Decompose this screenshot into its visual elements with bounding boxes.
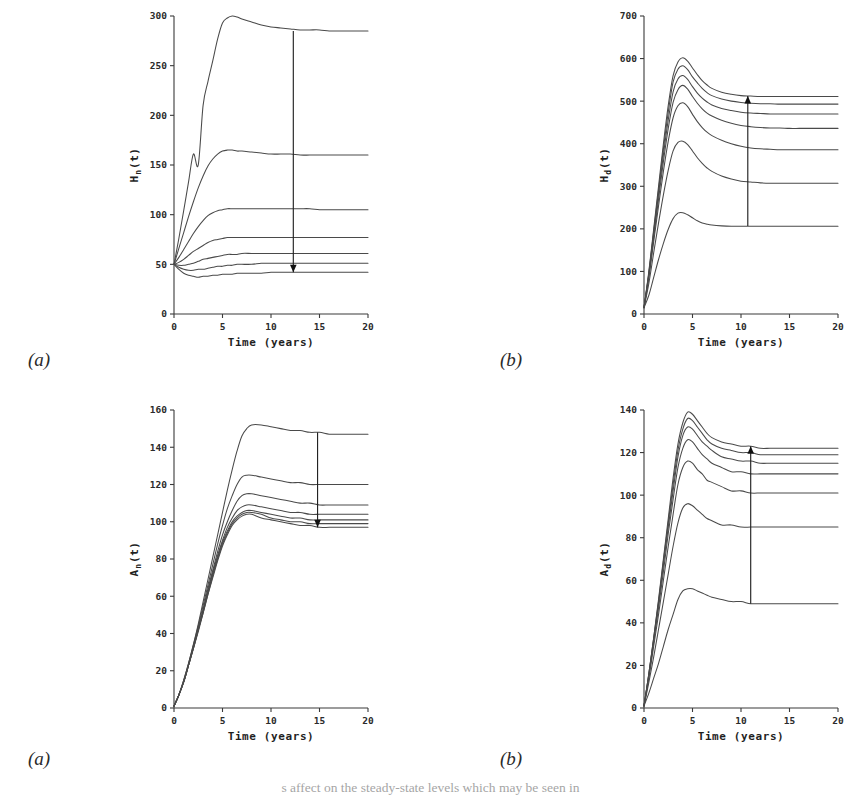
axes — [644, 16, 838, 314]
x-tick-label: 20 — [362, 321, 374, 332]
y-tick-label: 0 — [161, 308, 167, 319]
curve-line — [174, 475, 368, 706]
y-tick-label: 80 — [626, 532, 638, 543]
curve-group — [644, 58, 838, 308]
y-tick-label: 200 — [620, 223, 637, 234]
y-tick-label: 80 — [156, 553, 168, 564]
x-tick-label: 20 — [832, 715, 844, 726]
curve-line — [174, 264, 368, 277]
plot-panel-bottom-right: 02040608010012014005101520Time (years)Ad… — [596, 396, 848, 754]
x-axis-ticks: 05101520 — [641, 314, 844, 332]
svg-text:Hn(t): Hn(t) — [128, 148, 143, 183]
y-axis-title: Ad(t) — [598, 542, 613, 577]
curve-group — [174, 16, 368, 277]
y-axis-ticks: 050100150200250300 — [150, 10, 174, 319]
svg-text:An(t): An(t) — [128, 542, 143, 577]
y-tick-label: 100 — [150, 209, 167, 220]
y-tick-label: 300 — [150, 10, 167, 21]
x-tick-label: 5 — [690, 321, 696, 332]
curve-line — [174, 263, 368, 270]
y-tick-label: 20 — [626, 660, 638, 671]
chart-panel-h-n: 05010015020025030005101520Time (years)Hn… — [126, 2, 378, 360]
plot-panel-top-left: 05010015020025030005101520Time (years)Hn… — [126, 2, 378, 360]
y-tick-label: 60 — [626, 575, 638, 586]
x-tick-label: 10 — [265, 715, 277, 726]
x-tick-label: 0 — [641, 715, 647, 726]
y-tick-label: 100 — [620, 266, 637, 277]
y-axis-title: Hn(t) — [128, 148, 143, 183]
axes — [174, 410, 368, 708]
curve-line — [644, 103, 838, 308]
x-axis-title: Time (years) — [228, 336, 315, 349]
y-tick-label: 120 — [620, 447, 637, 458]
x-tick-label: 15 — [314, 321, 326, 332]
curve-line — [174, 16, 368, 264]
x-axis-title: Time (years) — [228, 730, 315, 743]
curve-line — [644, 141, 838, 308]
chart-panel-a-d: 02040608010012014005101520Time (years)Ad… — [596, 396, 848, 754]
direction-arrow — [290, 31, 297, 272]
x-tick-label: 20 — [832, 321, 844, 332]
y-tick-label: 140 — [620, 404, 637, 415]
x-tick-label: 5 — [690, 715, 696, 726]
x-axis-title: Time (years) — [698, 730, 785, 743]
y-axis-ticks: 020406080100120140 — [620, 404, 644, 713]
panel-tag-bottom-left: (a) — [28, 748, 50, 770]
curve-line — [644, 504, 838, 706]
panel-tag-bottom-right: (b) — [500, 748, 522, 770]
x-tick-label: 5 — [220, 715, 226, 726]
x-axis-ticks: 05101520 — [171, 708, 374, 726]
curve-line — [174, 209, 368, 265]
y-tick-label: 300 — [620, 181, 637, 192]
y-tick-label: 140 — [150, 442, 167, 453]
x-axis-ticks: 05101520 — [171, 314, 374, 332]
y-tick-label: 250 — [150, 60, 167, 71]
x-tick-label: 10 — [735, 715, 747, 726]
y-tick-label: 160 — [150, 404, 167, 415]
curve-line — [644, 76, 838, 308]
direction-arrow — [744, 96, 751, 226]
y-tick-label: 700 — [620, 10, 637, 21]
direction-arrow — [747, 446, 754, 604]
x-tick-label: 15 — [314, 715, 326, 726]
plot-panel-top-right: 010020030040050060070005101520Time (year… — [596, 2, 848, 360]
x-tick-label: 0 — [171, 715, 177, 726]
curve-line — [174, 150, 368, 264]
y-axis-ticks: 0100200300400500600700 — [620, 10, 644, 319]
panel-tag-top-right: (b) — [500, 349, 522, 371]
y-axis-title: Hd(t) — [598, 148, 613, 183]
y-tick-label: 150 — [150, 159, 167, 170]
y-tick-label: 400 — [620, 138, 637, 149]
y-tick-label: 100 — [150, 516, 167, 527]
y-tick-label: 100 — [620, 490, 637, 501]
curve-line — [644, 427, 838, 706]
y-tick-label: 600 — [620, 53, 637, 64]
svg-text:Ad(t): Ad(t) — [598, 542, 613, 577]
svg-text:Hd(t): Hd(t) — [598, 148, 613, 183]
curve-line — [644, 412, 838, 706]
y-tick-label: 0 — [161, 702, 167, 713]
curve-line — [174, 425, 368, 707]
curve-group — [644, 412, 838, 706]
y-axis-title: An(t) — [128, 542, 143, 577]
y-tick-label: 20 — [156, 665, 168, 676]
x-tick-label: 10 — [735, 321, 747, 332]
y-tick-label: 200 — [150, 110, 167, 121]
x-axis-ticks: 05101520 — [641, 708, 844, 726]
chart-panel-h-d: 010020030040050060070005101520Time (year… — [596, 2, 848, 360]
y-axis-ticks: 020406080100120140160 — [150, 404, 174, 713]
x-axis-title: Time (years) — [698, 336, 785, 349]
y-tick-label: 60 — [156, 591, 168, 602]
direction-arrow — [314, 432, 321, 527]
x-tick-label: 0 — [641, 321, 647, 332]
chart-panel-a-n: 02040608010012014016005101520Time (years… — [126, 396, 378, 754]
plot-panel-bottom-left: 02040608010012014016005101520Time (years… — [126, 396, 378, 754]
x-tick-label: 5 — [220, 321, 226, 332]
curve-group — [174, 425, 368, 707]
panel-tag-top-left: (a) — [28, 349, 50, 371]
x-tick-label: 20 — [362, 715, 374, 726]
x-tick-label: 15 — [784, 715, 796, 726]
y-tick-label: 120 — [150, 479, 167, 490]
figure-root: 05010015020025030005101520Time (years)Hn… — [0, 0, 861, 795]
x-tick-label: 10 — [265, 321, 277, 332]
